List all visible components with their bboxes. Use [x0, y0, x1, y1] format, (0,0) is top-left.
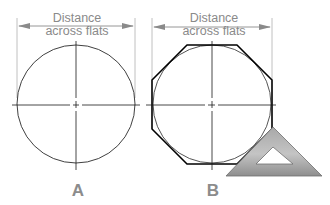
dimension-label-b-line2: across flats	[173, 25, 255, 38]
figure-label-a: A	[63, 181, 93, 201]
arrowhead-right-icon	[122, 23, 134, 29]
figure-b	[146, 18, 322, 176]
center-lines-a	[12, 41, 140, 170]
dimension-label-a-line2: across flats	[36, 25, 118, 38]
triangle-tool-icon	[226, 127, 322, 176]
figure-label-b: B	[198, 181, 228, 201]
diagram-canvas: Distance across flats Distance across fl…	[0, 0, 330, 205]
arrowhead-left-icon	[18, 23, 30, 29]
arrowhead-right-icon	[259, 24, 271, 30]
figure-a	[12, 18, 140, 170]
arrowhead-left-icon	[153, 24, 165, 30]
